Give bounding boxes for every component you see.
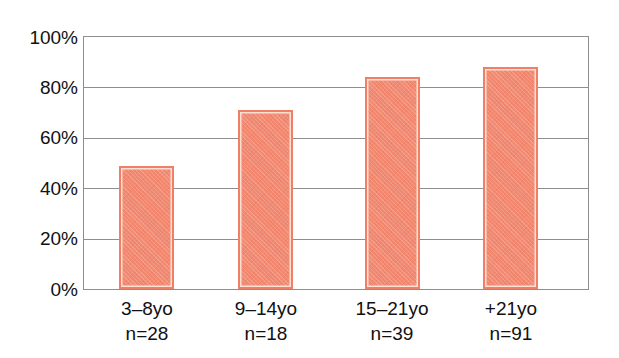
y-axis-tick-label-100: 100% [18, 28, 78, 47]
bar-9-14yo [238, 110, 293, 289]
bar-15-21yo [365, 77, 420, 289]
bar-3-8yo [119, 166, 174, 289]
x-axis-label-plus21yo: +21yo n=91 [430, 296, 592, 346]
y-axis-tick-label-60: 60% [18, 128, 78, 147]
bar-plus21yo [483, 67, 538, 289]
bar-chart: 100% 80% 60% 40% 20% 0% 3–8yo n=28 9–14y… [0, 0, 619, 358]
y-axis-tick-label-40: 40% [18, 179, 78, 198]
x-axis-n-plus21yo: n=91 [430, 321, 592, 346]
y-axis-tick-label-80: 80% [18, 78, 78, 97]
y-axis-tick-label-20: 20% [18, 229, 78, 248]
plot-area [83, 36, 589, 290]
x-axis-category-plus21yo: +21yo [430, 296, 592, 321]
